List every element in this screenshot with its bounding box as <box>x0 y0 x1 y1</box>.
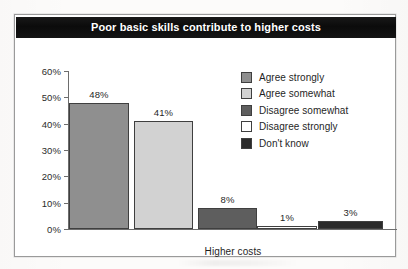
legend-item-label: Agree strongly <box>259 72 324 83</box>
legend-item: Disagree strongly <box>241 119 391 136</box>
legend-item: Agree somewhat <box>241 86 391 103</box>
chart-figure: Poor basic skills contribute to higher c… <box>14 14 396 257</box>
y-axis-tick-label: 30% <box>42 145 61 156</box>
chart-legend: Agree stronglyAgree somewhatDisagree som… <box>241 69 391 152</box>
chart-title-banner: Poor basic skills contribute to higher c… <box>16 17 396 38</box>
bar <box>257 226 317 229</box>
page-background: Poor basic skills contribute to higher c… <box>0 0 408 269</box>
legend-item: Disagree somewhat <box>241 102 391 119</box>
y-axis-tick <box>64 97 69 98</box>
y-axis-tick-label: 50% <box>42 92 61 103</box>
y-axis-tick-label: 20% <box>42 171 61 182</box>
x-axis-label: Higher costs <box>69 246 397 257</box>
legend-swatch-icon <box>241 72 252 83</box>
y-axis-tick-label: 40% <box>42 118 61 129</box>
y-axis-tick-label: 0% <box>47 224 61 235</box>
bar <box>198 208 257 229</box>
y-axis-tick-label: 10% <box>42 197 61 208</box>
bar <box>318 221 383 229</box>
bar-value-label: 8% <box>221 194 235 205</box>
bar-value-label: 1% <box>280 212 294 223</box>
legend-item-label: Agree somewhat <box>259 88 335 99</box>
bar-value-label: 3% <box>344 207 358 218</box>
page-title: Poor basic skills contribute to higher c… <box>91 22 321 33</box>
legend-item-label: Disagree somewhat <box>259 105 348 116</box>
legend-item-label: Disagree strongly <box>259 121 338 132</box>
bar <box>134 121 193 229</box>
legend-swatch-icon <box>241 121 252 132</box>
bar <box>69 103 129 229</box>
x-axis-line <box>68 229 397 230</box>
y-axis-tick <box>64 229 69 230</box>
legend-item: Don't know <box>241 135 391 152</box>
legend-item: Agree strongly <box>241 69 391 86</box>
y-axis-labels: 0%10%20%30%40%50%60% <box>13 71 61 230</box>
legend-swatch-icon <box>241 105 252 116</box>
y-axis-tick <box>64 71 69 72</box>
legend-item-label: Don't know <box>259 138 309 149</box>
bar-value-label: 48% <box>89 89 108 100</box>
y-axis-tick-label: 60% <box>42 66 61 77</box>
scan-artifact <box>178 260 298 266</box>
legend-swatch-icon <box>241 138 252 149</box>
bar-value-label: 41% <box>154 107 173 118</box>
legend-swatch-icon <box>241 88 252 99</box>
